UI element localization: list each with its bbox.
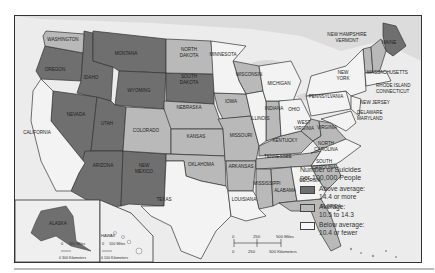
svg-text:0: 0 (61, 242, 63, 246)
svg-text:MISSISSIPPI: MISSISSIPPI (253, 181, 280, 186)
svg-text:500 Kilometers: 500 Kilometers (269, 249, 297, 254)
svg-text:MINNESOTA: MINNESOTA (210, 52, 238, 57)
svg-text:VIRGINIA: VIRGINIA (317, 125, 338, 130)
svg-text:COLORADO: COLORADO (133, 128, 160, 133)
svg-text:UTAH: UTAH (101, 121, 113, 126)
svg-text:NEW HAMPSHIRE: NEW HAMPSHIRE (327, 32, 366, 37)
svg-text:HAWAII: HAWAII (101, 233, 115, 238)
svg-text:0 300 Kilometers: 0 300 Kilometers (59, 256, 86, 260)
svg-text:OHIO: OHIO (288, 107, 300, 112)
svg-text:IOWA: IOWA (225, 99, 238, 104)
svg-text:0: 0 (102, 242, 104, 246)
svg-text:ARKANSAS: ARKANSAS (228, 164, 253, 169)
svg-text:CAROLINA: CAROLINA (314, 147, 338, 152)
svg-text:MASSACHUSETTS: MASSACHUSETTS (367, 70, 408, 75)
svg-text:SOUTH: SOUTH (316, 159, 332, 164)
svg-text:ALABAMA: ALABAMA (274, 188, 297, 193)
svg-text:MAINE: MAINE (382, 40, 397, 45)
svg-text:NORTH: NORTH (181, 47, 197, 52)
legend-item-below: Below average:10.4 or fewer (300, 221, 364, 236)
svg-text:PENNSYLVANIA: PENNSYLVANIA (309, 94, 344, 99)
svg-text:WYOMING: WYOMING (128, 88, 151, 93)
svg-text:DAKOTA: DAKOTA (180, 53, 199, 58)
svg-text:VIRGINIA: VIRGINIA (294, 126, 315, 131)
legend-swatch-above (300, 186, 315, 194)
svg-text:OKLAHOMA: OKLAHOMA (188, 162, 215, 167)
svg-text:INDIANA: INDIANA (265, 106, 285, 111)
svg-text:MEXICO: MEXICO (135, 169, 154, 174)
svg-text:NEW: NEW (338, 70, 349, 75)
svg-text:WISCONSIN: WISCONSIN (236, 72, 263, 77)
svg-text:VERMONT: VERMONT (336, 38, 359, 43)
svg-text:MONTANA: MONTANA (115, 51, 139, 56)
svg-text:250: 250 (253, 234, 261, 239)
svg-text:KENTUCKY: KENTUCKY (272, 138, 297, 143)
svg-text:NEBRASKA: NEBRASKA (176, 105, 202, 110)
svg-text:IDAHO: IDAHO (84, 75, 99, 80)
svg-text:SOUTH: SOUTH (181, 74, 197, 79)
legend-swatch-below (300, 222, 315, 230)
svg-text:WASHINGTON: WASHINGTON (47, 37, 78, 42)
svg-text:NEW: NEW (139, 163, 150, 168)
svg-text:NEW JERSEY: NEW JERSEY (360, 100, 390, 105)
svg-text:NEVADA: NEVADA (67, 112, 86, 117)
svg-text:ARIZONA: ARIZONA (93, 163, 114, 168)
legend-item-average: Average:10.5 to 14.3 (300, 203, 354, 218)
svg-text:MISSOURI: MISSOURI (230, 133, 253, 138)
alaska-inset: ALASKA 0 300 Miles 0 300 Kilometers (15, 200, 100, 262)
legend-title: Number of Suicides per 100,000 People (300, 166, 361, 182)
svg-text:CALIFORNIA: CALIFORNIA (23, 130, 52, 135)
svg-text:KANSAS: KANSAS (187, 134, 206, 139)
svg-text:CONNECTICUT: CONNECTICUT (376, 89, 410, 94)
legend-swatch-average (300, 204, 315, 212)
legend-item-above: Above average:14.4 or more (300, 185, 365, 200)
svg-text:ILLINOIS: ILLINOIS (251, 116, 270, 121)
svg-text:OREGON: OREGON (45, 67, 65, 72)
state-mississippi (256, 169, 273, 209)
svg-text:NORTH: NORTH (318, 141, 334, 146)
svg-text:DELAWARE: DELAWARE (357, 110, 382, 115)
svg-text:250: 250 (248, 249, 256, 254)
svg-text:YORK: YORK (336, 76, 350, 81)
svg-text:ALASKA: ALASKA (49, 221, 68, 226)
svg-text:MICHIGAN: MICHIGAN (268, 81, 291, 86)
svg-text:0 100 Kilometers: 0 100 Kilometers (101, 256, 128, 260)
svg-text:RHODE ISLAND: RHODE ISLAND (376, 83, 411, 88)
svg-text:300 Miles: 300 Miles (69, 242, 85, 246)
svg-text:100 Miles: 100 Miles (109, 242, 125, 246)
svg-text:TENNESSEE: TENNESSEE (264, 154, 292, 159)
svg-text:MARYLAND: MARYLAND (357, 116, 383, 121)
svg-text:WEST: WEST (297, 120, 310, 125)
svg-text:LOUISIANA: LOUISIANA (232, 197, 257, 202)
svg-text:500 Miles: 500 Miles (276, 234, 294, 239)
bottom-divider (14, 268, 434, 270)
svg-text:TEXAS: TEXAS (156, 197, 171, 202)
svg-text:DAKOTA: DAKOTA (180, 80, 199, 85)
